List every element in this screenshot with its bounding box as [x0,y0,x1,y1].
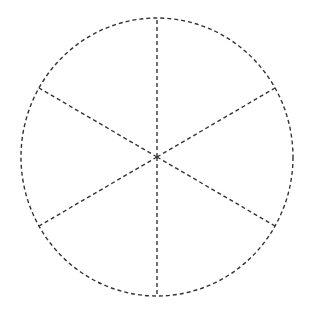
spoke-line-3 [39,88,157,157]
spoke-line-6 [157,157,275,226]
sector-spokes [39,18,275,296]
divided-circle-diagram [0,0,311,311]
spoke-line-4 [157,88,275,157]
spoke-line-5 [39,157,157,226]
